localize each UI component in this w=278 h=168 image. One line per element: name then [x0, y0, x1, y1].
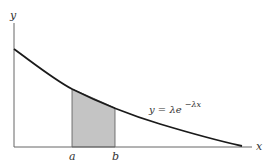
equation-exponent: −λx	[185, 100, 202, 109]
shaded-area	[72, 89, 115, 147]
a-label: a	[69, 150, 76, 163]
b-label: b	[112, 150, 119, 163]
equation-base: y = λe	[148, 104, 182, 115]
exponential-density-diagram: y x a b y = λe −λx	[0, 0, 278, 168]
curve-equation: y = λe −λx	[148, 100, 202, 115]
exponential-curve	[14, 49, 242, 146]
x-axis-label: x	[256, 140, 263, 153]
y-axis-label: y	[9, 9, 17, 22]
